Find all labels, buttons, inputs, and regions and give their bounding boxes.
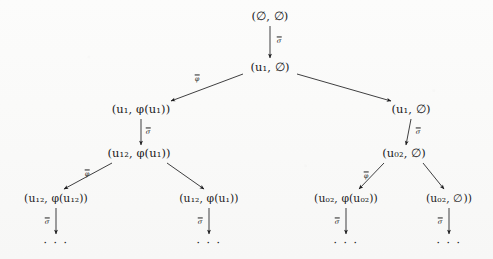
tree-node-u02-phi-u02: (u₀₂, φ(u₀₂)): [314, 194, 378, 205]
tree-node-u1-empty: (u₁, ∅): [250, 62, 289, 74]
ellipsis-under-u12-phi-u12: · · ·: [44, 237, 69, 250]
edge-label-sigma-n3-n5: σ: [416, 128, 421, 135]
sigma-bar-glyph: σ: [335, 218, 340, 225]
tree-node-u1-phi-u1: (u₁, φ(u₁)): [112, 104, 170, 116]
tree-node-root: (∅, ∅): [252, 11, 289, 23]
edge-label-sigma-root: σ: [277, 37, 282, 44]
edge-n3-n5: [406, 119, 411, 145]
edge-label-phi-n5-n8: φ: [364, 172, 369, 179]
phi-bar-glyph: φ: [364, 172, 369, 179]
sigma-bar-glyph: σ: [45, 218, 50, 225]
sigma-bar-glyph: σ: [277, 37, 282, 44]
edge-n1-n2: [171, 74, 243, 101]
ellipsis-under-u02-empty: · · ·: [437, 237, 462, 250]
edge-label-sigma-n9-dots: σ: [438, 218, 443, 225]
edge-label-phi-n4-n6: φ: [85, 170, 90, 177]
edge-n4-n7: [167, 163, 204, 189]
phi-bar-glyph: φ: [85, 170, 90, 177]
edge-n1-n3: [297, 74, 391, 101]
sigma-bar-glyph: σ: [146, 128, 151, 135]
ellipsis-under-u02-phi-u02: · · ·: [334, 237, 359, 250]
derivation-tree-figure: (∅, ∅) (u₁, ∅) (u₁, φ(u₁)) (u₁, ∅) (u₁₂,…: [0, 0, 493, 259]
phi-bar-glyph: φ: [195, 75, 200, 82]
edge-label-sigma-n8-dots: σ: [335, 218, 340, 225]
tree-node-u12-phi-u1: (u₁₂, φ(u₁)): [107, 148, 170, 160]
edge-label-sigma-n7-dots: σ: [198, 218, 203, 225]
sigma-bar-glyph: σ: [416, 128, 421, 135]
tree-node-u1-empty-2: (u₁, ∅): [391, 104, 430, 116]
edge-label-sigma-n6-dots: σ: [45, 218, 50, 225]
tree-node-u12-phi-u12: (u₁₂, φ(u₁₂)): [24, 194, 88, 205]
ellipsis-under-u12-phi-u1: · · ·: [197, 237, 222, 250]
tree-node-u02-empty-2: (u₀₂, ∅)): [426, 194, 472, 205]
tree-node-u02-empty: (u₀₂, ∅): [382, 148, 426, 160]
edge-label-sigma-n2-n4: σ: [146, 128, 151, 135]
sigma-bar-glyph: σ: [438, 218, 443, 225]
tree-node-u12-phi-u1-2: (u₁₂, φ(u₁)): [179, 194, 238, 205]
edge-label-phi-n1-n2: φ: [195, 75, 200, 82]
sigma-bar-glyph: σ: [198, 218, 203, 225]
edge-n5-n9: [423, 163, 444, 189]
